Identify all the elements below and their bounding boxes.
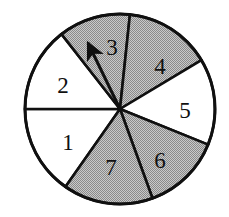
sector-1-label: 1 <box>62 130 74 155</box>
sector-2-label: 2 <box>57 73 69 98</box>
sector-3-label: 3 <box>106 35 118 60</box>
sector-5-label: 5 <box>179 98 191 123</box>
spinner-diagram: 1234567 <box>0 0 229 217</box>
sector-7-label: 7 <box>105 155 117 180</box>
sector-6-label: 6 <box>154 148 166 173</box>
sector-4-label: 4 <box>154 54 166 79</box>
spinner-figure: 1234567 <box>0 0 229 217</box>
